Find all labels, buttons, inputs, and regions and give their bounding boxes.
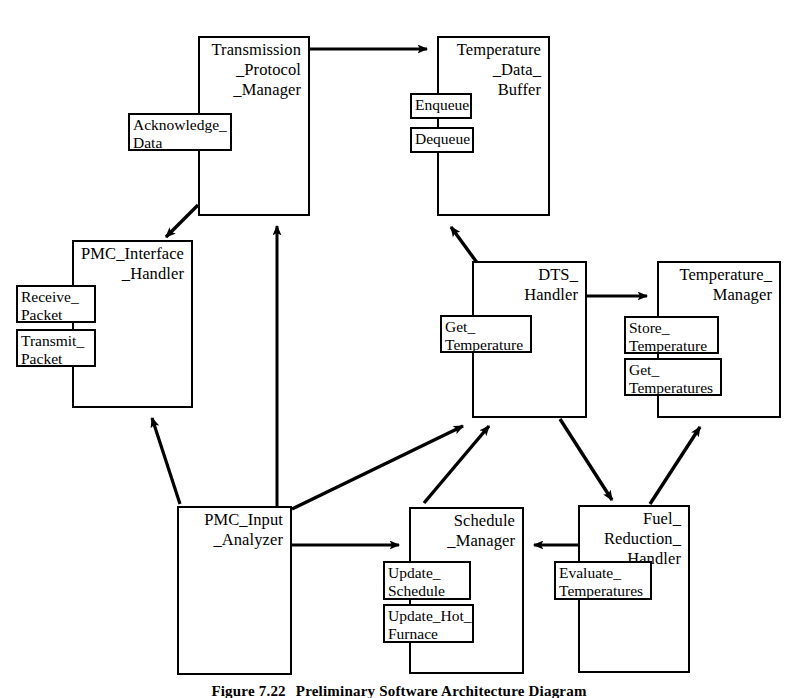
- operation-update-hot-furnace[interactable]: Update_Hot_ Furnace: [383, 604, 474, 643]
- component-title: PMC_Interface _Handler: [74, 242, 191, 284]
- connector-sm-to-dts: [424, 426, 489, 503]
- operation-update-schedule[interactable]: Update_ Schedule: [383, 561, 471, 600]
- connector-frh-to-tm: [650, 427, 700, 504]
- connector-dts-to-frh: [560, 419, 612, 500]
- component-title: DTS_ Handler: [474, 263, 585, 305]
- component-title: PMC_Input _Analyzer: [179, 508, 290, 550]
- component-pmc-input-analyzer[interactable]: PMC_Input _Analyzer: [177, 506, 292, 675]
- connector-pia-to-dts: [292, 426, 463, 509]
- operation-get-temperatures[interactable]: Get_ Temperatures: [624, 358, 722, 396]
- operation-transmit-packet[interactable]: Transmit_ Packet: [16, 329, 96, 367]
- figure-title: Preliminary Software Architecture Diagra…: [286, 683, 587, 698]
- component-title: Temperature _Data_ Buffer: [439, 38, 548, 100]
- component-title: Temperature_ Manager: [659, 263, 779, 305]
- operation-receive-packet[interactable]: Receive_ Packet: [16, 285, 96, 323]
- architecture-diagram-canvas: Transmission _Protocol _Manager Acknowle…: [0, 0, 798, 698]
- operation-acknowledge-data[interactable]: Acknowledge_ Data: [128, 113, 232, 151]
- component-temperature-data-buffer[interactable]: Temperature _Data_ Buffer: [437, 36, 550, 216]
- connector-tpm-to-pih: [166, 205, 198, 237]
- operation-get-temperature[interactable]: Get_ Temperature: [440, 315, 532, 353]
- connector-dts-to-tdb: [451, 227, 478, 264]
- figure-number: Figure 7.22: [211, 683, 285, 698]
- component-title: Schedule _Manager: [411, 509, 522, 551]
- component-title: Transmission _Protocol _Manager: [200, 38, 308, 100]
- figure-caption: Figure 7.22Preliminary Software Architec…: [0, 683, 798, 698]
- operation-store-temperature[interactable]: Store_ Temperature: [624, 316, 719, 354]
- component-pmc-interface-handler[interactable]: PMC_Interface _Handler: [72, 240, 193, 408]
- connector-pia-to-pih: [152, 418, 180, 504]
- operation-dequeue[interactable]: Dequeue: [410, 127, 474, 153]
- operation-evaluate-temperatures[interactable]: Evaluate_ Temperatures: [554, 561, 652, 600]
- operation-enqueue[interactable]: Enqueue: [410, 93, 472, 119]
